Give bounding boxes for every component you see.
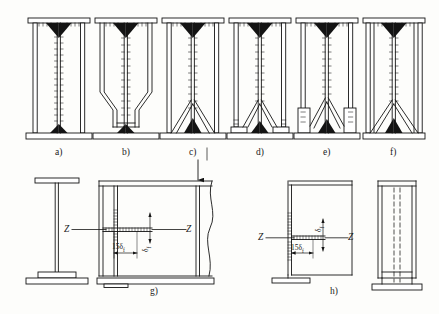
dimension-df-g-value: δ [141, 248, 150, 252]
drawing-canvas: a) b) c) d) e) f) g) h) Z Z 15δf δf Z Z … [0, 0, 439, 314]
figure-caption-d: d) [256, 147, 264, 157]
dimension-15df-g-value: 15δ [112, 242, 123, 251]
figure-caption-f: f) [390, 147, 396, 157]
figure-caption-c: c) [189, 147, 196, 157]
figure-a-drawing [26, 18, 92, 139]
figure-d-drawing [227, 18, 293, 139]
figure-h-main-elevation [266, 181, 352, 283]
dimension-15df-g: 15δf [112, 242, 125, 253]
section-mark-z-right-h: Z [348, 232, 353, 242]
section-mark-z-right-g: Z [186, 224, 191, 234]
dimension-df-h: δf [314, 227, 325, 232]
figure-b-drawing [93, 18, 159, 139]
figure-caption-e: e) [323, 147, 330, 157]
figure-h-side-elevation [372, 181, 422, 290]
dimension-df-h-value: δ [314, 228, 323, 232]
figure-caption-a: a) [55, 147, 62, 157]
figure-caption-b: b) [122, 147, 130, 157]
section-mark-z-left-g: Z [64, 224, 69, 234]
figure-g-side-elevation [26, 178, 88, 284]
dimension-15df-h-sub: f [302, 248, 304, 254]
dimension-df-h-sub: f [319, 227, 325, 229]
figure-f-drawing [363, 18, 425, 139]
figure-g-main-elevation [72, 160, 214, 288]
engineering-drawing-svg [0, 0, 439, 314]
figure-caption-h: h) [330, 286, 338, 296]
dimension-df-g: δf [141, 247, 152, 252]
dimension-15df-h-value: 15δ [291, 243, 302, 252]
dimension-15df-g-sub: f [123, 247, 125, 253]
figure-c-drawing [160, 18, 226, 139]
figure-caption-g: g) [150, 286, 158, 296]
figure-e-drawing [294, 18, 360, 139]
section-mark-z-left-h: Z [258, 232, 263, 242]
dimension-df-g-sub: f [146, 247, 152, 249]
dimension-15df-h: 15δf [291, 243, 304, 254]
